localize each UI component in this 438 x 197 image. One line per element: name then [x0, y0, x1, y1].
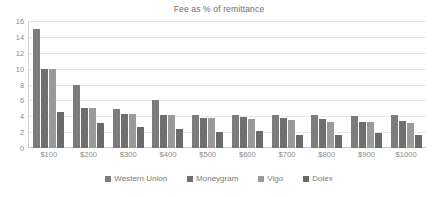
bars-layer — [29, 21, 426, 148]
bar-group — [307, 21, 347, 148]
bar — [311, 115, 318, 148]
bar — [256, 131, 263, 148]
bar-group — [188, 21, 228, 148]
bar — [272, 115, 279, 148]
bar — [359, 122, 366, 148]
bar-group — [267, 21, 307, 148]
bar-group — [148, 21, 188, 148]
x-axis: $100$200$300$400$500$600$700$800$900$100… — [29, 150, 426, 159]
x-axis-tick-label: $300 — [108, 150, 148, 159]
x-axis-tick-label: $1000 — [386, 150, 426, 159]
bar-group — [347, 21, 387, 148]
bar — [335, 135, 342, 148]
bar-group — [69, 21, 109, 148]
y-axis-tick-label: 0 — [20, 144, 24, 153]
y-axis-tick-label: 4 — [20, 112, 24, 121]
y-axis-tick-label: 10 — [16, 64, 24, 73]
x-axis-tick-label: $200 — [69, 150, 109, 159]
bar — [121, 114, 128, 148]
legend-swatch-icon — [105, 176, 111, 182]
legend-item[interactable]: Moneygram — [187, 174, 238, 183]
x-axis-tick-label: $900 — [347, 150, 387, 159]
bar — [375, 133, 382, 148]
x-axis-tick-label: $500 — [188, 150, 228, 159]
bar — [280, 118, 287, 148]
bar — [296, 135, 303, 148]
x-axis-tick-label: $400 — [148, 150, 188, 159]
bar-group — [228, 21, 268, 148]
bar — [216, 132, 223, 148]
bar — [57, 112, 64, 148]
bar — [399, 121, 406, 148]
x-axis-tick-label: $600 — [228, 150, 268, 159]
x-axis-tick-label: $800 — [307, 150, 347, 159]
bar — [129, 114, 136, 148]
legend-label: Vigo — [267, 174, 283, 183]
legend-item[interactable]: Western Union — [105, 174, 167, 183]
bar — [351, 116, 358, 148]
bar — [49, 69, 56, 148]
bar — [232, 115, 239, 148]
bar-group — [29, 21, 69, 148]
bar — [113, 109, 120, 148]
x-axis-tick-label: $100 — [29, 150, 69, 159]
legend-swatch-icon — [303, 176, 309, 182]
bar-group — [386, 21, 426, 148]
legend-label: Dolex — [312, 174, 332, 183]
bar — [89, 108, 96, 148]
chart-title: Fee as % of remittance — [0, 4, 438, 14]
bar — [407, 123, 414, 148]
bar — [73, 85, 80, 149]
x-axis-tick-label: $700 — [267, 150, 307, 159]
y-axis-tick-label: 2 — [20, 128, 24, 137]
bar — [367, 122, 374, 148]
y-axis-tick-label: 12 — [16, 48, 24, 57]
bar — [391, 115, 398, 148]
bar — [137, 127, 144, 148]
bar — [240, 117, 247, 148]
legend-swatch-icon — [187, 176, 193, 182]
bar — [192, 115, 199, 148]
bar — [288, 120, 295, 148]
bar — [41, 69, 48, 148]
legend-swatch-icon — [258, 176, 264, 182]
legend-label: Western Union — [114, 174, 167, 183]
fee-remittance-bar-chart: Fee as % of remittance 1614121086420 $10… — [0, 0, 438, 197]
bar — [81, 108, 88, 148]
legend-label: Moneygram — [196, 174, 238, 183]
y-axis-tick-label: 8 — [20, 80, 24, 89]
bar — [327, 122, 334, 148]
bar — [319, 119, 326, 148]
legend-item[interactable]: Vigo — [258, 174, 283, 183]
bar — [208, 118, 215, 148]
legend-item[interactable]: Dolex — [303, 174, 332, 183]
bar — [415, 135, 422, 148]
chart-legend: Western UnionMoneygramVigoDolex — [0, 174, 438, 183]
y-axis-tick-label: 16 — [16, 17, 24, 26]
bar — [97, 123, 104, 148]
bar — [200, 118, 207, 148]
bar — [176, 129, 183, 148]
bar — [248, 119, 255, 148]
y-axis-tick-label: 14 — [16, 32, 24, 41]
bar — [152, 100, 159, 148]
bar-group — [108, 21, 148, 148]
y-axis-tick-label: 6 — [20, 96, 24, 105]
bar — [160, 115, 167, 148]
y-axis: 1614121086420 — [0, 21, 24, 148]
bar — [168, 115, 175, 148]
bar — [33, 29, 40, 148]
